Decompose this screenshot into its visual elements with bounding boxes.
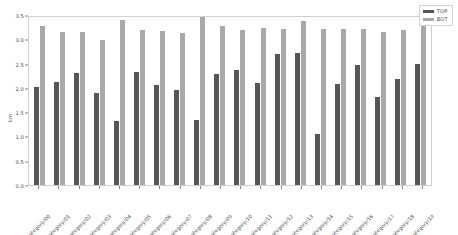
- bar-bot[interactable]: [421, 24, 426, 185]
- x-tick-cell: category/09: [210, 186, 230, 235]
- bar-bot[interactable]: [240, 30, 245, 185]
- bar-top[interactable]: [234, 70, 239, 185]
- bar-group[interactable]: [371, 17, 391, 185]
- bar-top[interactable]: [194, 120, 199, 185]
- bar-chart-figure: 0.00.51.01.52.02.53.03.5 km category/00c…: [0, 0, 458, 235]
- x-tick-mark: [159, 186, 160, 189]
- bar-bot[interactable]: [160, 31, 165, 185]
- bar-top[interactable]: [34, 87, 39, 185]
- y-tick-label: 0.0: [15, 183, 24, 189]
- bar-bot[interactable]: [140, 30, 145, 185]
- bar-group[interactable]: [170, 17, 190, 185]
- bar-bot[interactable]: [220, 26, 225, 185]
- y-axis-label: km: [7, 113, 13, 121]
- bar-bot[interactable]: [80, 32, 85, 185]
- legend-entry[interactable]: TOP: [423, 8, 448, 15]
- bar-group[interactable]: [270, 17, 290, 185]
- bar-top[interactable]: [114, 121, 119, 185]
- bar-bot[interactable]: [100, 40, 105, 185]
- bar-bot[interactable]: [180, 33, 185, 186]
- bar-bot[interactable]: [60, 32, 65, 185]
- plot-area: [28, 16, 432, 186]
- bar-group[interactable]: [310, 17, 330, 185]
- bar-top[interactable]: [74, 73, 79, 185]
- x-tick-mark: [119, 186, 120, 189]
- bar-top[interactable]: [94, 93, 99, 185]
- bar-top[interactable]: [174, 90, 179, 185]
- bar-group[interactable]: [150, 17, 170, 185]
- x-tick-mark: [79, 186, 80, 189]
- x-tick-mark: [341, 186, 342, 189]
- bar-group[interactable]: [49, 17, 69, 185]
- legend-entry[interactable]: BOT: [423, 16, 448, 23]
- bar-top[interactable]: [214, 74, 219, 185]
- bar-top[interactable]: [315, 134, 320, 185]
- bar-top[interactable]: [375, 97, 380, 185]
- bar-top[interactable]: [355, 65, 360, 185]
- bar-bot[interactable]: [361, 29, 366, 185]
- bar-bot[interactable]: [200, 17, 205, 185]
- x-tick-mark: [220, 186, 221, 189]
- y-tick-label: 2.0: [15, 86, 24, 92]
- bar-bot[interactable]: [341, 29, 346, 185]
- x-tick-cell: category/13: [291, 186, 311, 235]
- x-tick-mark: [361, 186, 362, 189]
- bar-bot[interactable]: [381, 32, 386, 185]
- legend-label: TOP: [437, 8, 448, 15]
- bar-group[interactable]: [250, 17, 270, 185]
- bar-bot[interactable]: [261, 28, 266, 185]
- bar-bot[interactable]: [401, 30, 406, 185]
- bar-top[interactable]: [395, 79, 400, 185]
- x-tick-mark: [38, 186, 39, 189]
- x-tick-cell: category/00: [28, 186, 48, 235]
- bar-group[interactable]: [89, 17, 109, 185]
- bar-bot[interactable]: [301, 21, 306, 185]
- legend-label: BOT: [437, 16, 448, 23]
- bar-top[interactable]: [154, 85, 159, 185]
- bar-top[interactable]: [255, 83, 260, 185]
- bar-top[interactable]: [295, 53, 300, 185]
- x-tick-mark: [260, 186, 261, 189]
- bar-top[interactable]: [54, 82, 59, 185]
- bar-group[interactable]: [29, 17, 49, 185]
- bar-group[interactable]: [190, 17, 210, 185]
- y-tick-label: 0.5: [15, 159, 24, 165]
- legend: TOPBOT: [419, 5, 453, 26]
- x-tick-list: category/00category/01category/02categor…: [28, 186, 432, 235]
- bar-group[interactable]: [69, 17, 89, 185]
- bar-group[interactable]: [391, 17, 411, 185]
- x-tick-mark: [402, 186, 403, 189]
- bar-group[interactable]: [129, 17, 149, 185]
- legend-swatch: [423, 10, 434, 13]
- bar-group[interactable]: [109, 17, 129, 185]
- x-tick-mark: [99, 186, 100, 189]
- bar-group[interactable]: [411, 17, 431, 185]
- bar-group[interactable]: [230, 17, 250, 185]
- bar-bot[interactable]: [321, 29, 326, 185]
- bar-group[interactable]: [290, 17, 310, 185]
- bar-group[interactable]: [210, 17, 230, 185]
- y-tick-label: 3.5: [15, 13, 24, 19]
- x-tick-mark: [139, 186, 140, 189]
- bar-top[interactable]: [335, 84, 340, 185]
- bar-bot[interactable]: [120, 20, 125, 185]
- bar-top[interactable]: [415, 64, 420, 185]
- bar-bot[interactable]: [40, 26, 45, 185]
- x-tick-cell: category/01: [48, 186, 68, 235]
- x-tick-mark: [58, 186, 59, 189]
- bar-bot[interactable]: [281, 29, 286, 185]
- bar-top[interactable]: [275, 54, 280, 185]
- x-tick-mark: [382, 186, 383, 189]
- x-tick-mark: [281, 186, 282, 189]
- x-tick-cell: category/16: [351, 186, 371, 235]
- x-tick-cell: category/06: [149, 186, 169, 235]
- x-tick-mark: [200, 186, 201, 189]
- bar-top[interactable]: [134, 72, 139, 185]
- x-tick-cell: category/11: [250, 186, 270, 235]
- x-tick-mark: [301, 186, 302, 189]
- bar-group[interactable]: [330, 17, 350, 185]
- bars-layer: [29, 17, 431, 185]
- x-axis: category/00category/01category/02categor…: [28, 186, 432, 235]
- bar-group[interactable]: [351, 17, 371, 185]
- x-tick-cell: category/10: [230, 186, 250, 235]
